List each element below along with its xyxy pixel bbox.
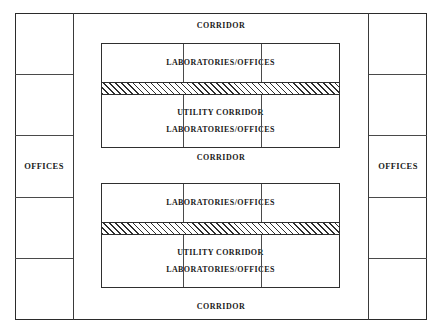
utility-corridor-hatch-band-upper (102, 82, 339, 95)
office-wing-left: OFFICES (15, 13, 74, 320)
office-cell (15, 13, 73, 75)
office-wing-right: OFFICES (368, 13, 427, 320)
office-cell (369, 198, 427, 260)
central-zone: CORRIDOR LABORATORIES/OFFICES UTILITY CO… (74, 13, 368, 320)
office-cell (15, 259, 73, 320)
laboratories-offices-label: LABORATORIES/OFFICES (166, 126, 275, 134)
offices-label-left: OFFICES (24, 162, 64, 171)
office-cell (369, 75, 427, 137)
floor-plan-diagram: OFFICES OFFICES CORRIDOR (0, 0, 440, 336)
utility-corridor-hatch-band-lower (102, 222, 339, 235)
lab-block-lower: LABORATORIES/OFFICES UTILITY CORRIDOR LA… (101, 183, 340, 288)
lab-row-lower-top: LABORATORIES/OFFICES (102, 184, 339, 222)
office-cell-labeled: OFFICES (15, 136, 73, 198)
laboratories-offices-label: LABORATORIES/OFFICES (166, 266, 275, 274)
corridor-label-bottom: CORRIDOR (74, 303, 368, 311)
office-cell (15, 198, 73, 260)
laboratories-offices-label: LABORATORIES/OFFICES (166, 59, 275, 67)
office-cell (15, 75, 73, 137)
office-cell (369, 13, 427, 75)
lab-row-upper-top: LABORATORIES/OFFICES (102, 44, 339, 82)
lab-row-lower-bottom: UTILITY CORRIDOR LABORATORIES/OFFICES (102, 235, 339, 287)
corridor-label-middle: CORRIDOR (74, 154, 368, 162)
lab-row-upper-bottom: UTILITY CORRIDOR LABORATORIES/OFFICES (102, 95, 339, 147)
offices-label-right: OFFICES (378, 162, 418, 171)
utility-corridor-label: UTILITY CORRIDOR (177, 249, 263, 257)
lab-block-upper: LABORATORIES/OFFICES UTILITY CORRIDOR LA… (101, 43, 340, 148)
office-cell (369, 259, 427, 320)
corridor-label-top: CORRIDOR (74, 22, 368, 30)
office-cell-labeled: OFFICES (369, 136, 427, 198)
laboratories-offices-label: LABORATORIES/OFFICES (166, 199, 275, 207)
utility-corridor-label: UTILITY CORRIDOR (177, 109, 263, 117)
